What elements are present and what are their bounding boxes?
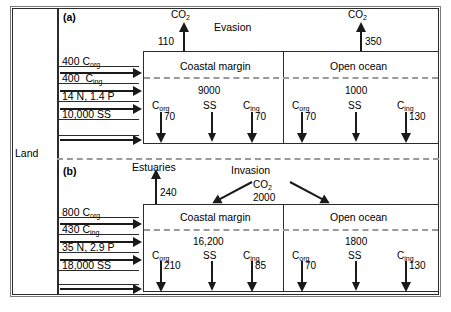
panel-b-coastal-cing-value: 85 (255, 261, 266, 271)
panel-b-invasion-species: CO2 (253, 180, 272, 191)
panel-b-estuaries-value: 240 (160, 188, 177, 198)
panel-b-coastal-corg-value: 210 (164, 261, 181, 271)
panel-b-estuaries-arrow (155, 178, 157, 205)
panel-b-box-divider (283, 205, 284, 291)
panel-b-ocean-corg-arrow (301, 261, 303, 283)
panel-b-coastal-pool-label: SS (203, 251, 216, 261)
panel-b-coastal-cing-arrow (251, 261, 253, 283)
panel-b-input-4-label: 18,000 SS (62, 260, 111, 271)
panel-b-invasion-right-arrow (290, 181, 324, 200)
panel-b-sea-surface-dashed (144, 229, 438, 231)
panel-b-invasion-label: Invasion (231, 165, 270, 176)
panel-b-invasion-value: 2000 (253, 193, 275, 203)
panel-b-input-1-label: 800 Corg (62, 207, 100, 219)
panel-b-coastal-ss-arrow (211, 261, 213, 283)
panel-b-ocean-cing-value: 130 (409, 261, 426, 271)
panel-b-ocean-pool-label: SS (348, 251, 361, 261)
flux-diagram: Land (a) Evasion CO2 110 CO2 350 Coastal… (0, 0, 451, 312)
panel-b-ocean-cing-arrow (405, 261, 407, 283)
panel-b-coastal-corg-arrow (160, 261, 162, 283)
panel-b-coastal-margin-title: Coastal margin (180, 212, 251, 223)
panel-b-label: (b) (63, 166, 76, 177)
panel-b-input-4-rule-lower (57, 284, 139, 285)
panel-b-input-4-arrow (60, 288, 134, 290)
panel-b-input-3-label: 35 N, 2.9 P (62, 242, 115, 253)
panel-b-ocean-pool-value: 1800 (345, 237, 367, 247)
panel-b-ocean-ss-arrow (355, 261, 357, 283)
panel-b-open-ocean-title: Open ocean (330, 212, 387, 223)
panel-b-input-2-label: 430 Cing (62, 224, 99, 236)
panel-b: (b) Estuaries 240 Invasion CO2 2000 Coas… (0, 0, 451, 312)
panel-b-ocean-corg-value: 70 (305, 261, 316, 271)
panel-b-invasion-left-arrow (219, 181, 253, 200)
panel-b-coastal-pool-value: 16,200 (193, 237, 224, 247)
